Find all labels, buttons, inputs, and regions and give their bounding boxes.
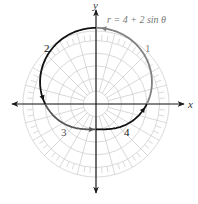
grid-tick (123, 41, 125, 46)
grid-tick (31, 126, 36, 128)
grid-tick (132, 47, 135, 52)
grid-tick (151, 136, 159, 141)
grid-tick (154, 131, 159, 133)
grid-tick (128, 41, 133, 49)
grid-tick (132, 156, 135, 161)
curve-segment-1 (96, 28, 152, 104)
grid-tick (59, 41, 64, 49)
grid-tick (77, 165, 79, 174)
grid-tick (28, 92, 34, 93)
grid-tick (25, 120, 34, 122)
grid-tick (137, 153, 141, 157)
grid-tick (156, 126, 161, 128)
grid-tick (156, 80, 161, 82)
grid-tick (84, 36, 85, 42)
x-axis-label: x (187, 98, 193, 110)
grid-tick (118, 164, 120, 169)
grid-tick (67, 41, 69, 46)
grid-tick (112, 165, 114, 174)
grid-tick (33, 67, 41, 72)
grid-radial-line (51, 59, 87, 95)
grid-tick (159, 92, 165, 93)
grid-tick (72, 39, 74, 44)
grid-radial-line (80, 116, 93, 165)
equation-label: r = 4 + 2 sin θ (107, 14, 166, 25)
grid-tick (141, 149, 148, 156)
grid-tick (137, 51, 141, 55)
grid-tick (52, 51, 56, 55)
grid-tick (112, 33, 114, 42)
grid-tick (33, 136, 41, 141)
grid-tick (154, 75, 159, 77)
grid-tick (151, 67, 159, 72)
grid-tick (128, 159, 133, 167)
grid-tick (107, 167, 108, 173)
curve-arrow-3-icon (89, 127, 94, 132)
grid-tick (43, 145, 47, 149)
grid-tick (84, 167, 85, 173)
segment-label-1: 1 (145, 42, 151, 54)
grid-tick (77, 33, 79, 42)
grid-tick (159, 115, 165, 116)
grid-tick (72, 164, 74, 169)
grid-tick (148, 140, 153, 143)
grid-radial-line (80, 43, 93, 92)
segment-label-3: 3 (61, 126, 67, 138)
grid-radial-line (105, 59, 141, 95)
grid-tick (52, 153, 56, 157)
polar-graph: x y r = 4 + 2 sin θ 1 2 3 4 (0, 0, 198, 204)
grid-tick (145, 145, 149, 149)
grid-radial-line (35, 107, 84, 120)
grid-tick (107, 36, 108, 42)
grid-tick (25, 85, 34, 87)
grid-tick (157, 85, 166, 87)
curve-segment-2 (40, 28, 96, 104)
grid-tick (31, 80, 36, 82)
grid-tick (157, 120, 166, 122)
segment-label-4: 4 (124, 126, 130, 138)
y-axis-label: y (92, 0, 98, 11)
grid-tick (33, 131, 38, 133)
grid-radial-line (64, 115, 89, 159)
grid-radial-line (99, 43, 112, 92)
grid-tick (39, 140, 44, 143)
grid-radial-line (41, 72, 85, 97)
segment-label-2: 2 (44, 42, 50, 54)
grid-tick (123, 162, 125, 167)
grid-tick (118, 39, 120, 44)
grid-tick (33, 75, 38, 77)
grid-tick (28, 115, 34, 116)
grid-tick (59, 159, 64, 167)
grid-radial-line (64, 49, 89, 93)
grid-radial-line (107, 72, 151, 97)
grid-tick (56, 47, 59, 52)
grid-tick (56, 156, 59, 161)
grid-radial-line (99, 116, 112, 165)
grid-tick (67, 162, 69, 167)
grid-radial-line (108, 107, 157, 120)
grid-radial-line (102, 49, 127, 93)
grid-tick (44, 149, 51, 156)
